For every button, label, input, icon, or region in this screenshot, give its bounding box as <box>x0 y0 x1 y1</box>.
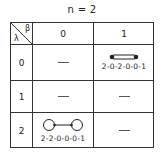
empty-dash <box>119 96 130 97</box>
row-header-2: 2 <box>11 113 32 148</box>
cell-0-1: 2-0-2-0-0-1 <box>94 45 154 80</box>
column-header-1: 1 <box>94 23 154 44</box>
empty-dash <box>58 96 69 97</box>
cell-1-1 <box>94 81 154 112</box>
cell-2-1 <box>94 113 154 148</box>
cell-1-0 <box>33 81 93 112</box>
row-header-1: 1 <box>11 81 32 112</box>
double-bond-rod-icon <box>109 54 139 60</box>
diagram-table: β λ 0 1 0 1 2 2-0-2-0-0-1 2-2-0-0-0-1 <box>10 22 154 148</box>
diagram-title: n = 2 <box>0 4 164 15</box>
diagram-label: 2-2-0-0-0-1 <box>41 134 85 143</box>
lambda-symbol: λ <box>14 34 19 43</box>
cell-2-0: 2-2-0-0-0-1 <box>33 113 93 148</box>
corner-cell: β λ <box>11 23 33 45</box>
empty-dash <box>119 130 130 131</box>
diagram-label: 2-0-2-0-0-1 <box>102 62 146 71</box>
beta-symbol: β <box>25 24 30 33</box>
row-header-0: 0 <box>11 45 32 80</box>
column-header-0: 0 <box>33 23 93 44</box>
cell-0-0 <box>33 45 93 80</box>
two-loops-connected-icon <box>42 118 84 132</box>
empty-dash <box>58 62 69 63</box>
